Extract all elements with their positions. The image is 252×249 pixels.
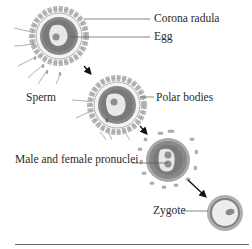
bottom-divider	[15, 244, 249, 245]
label-polar-bodies: Polar bodies	[156, 92, 213, 104]
label-pronuclei: Male and female pronuclei	[15, 154, 139, 166]
label-corona-radula: Corona radula	[154, 13, 219, 25]
stage-2-sperm-entry	[72, 78, 144, 140]
label-sperm: Sperm	[26, 92, 56, 104]
label-egg: Egg	[154, 31, 173, 43]
stage-4-zygote	[207, 195, 243, 231]
fertilization-diagram: Corona radula Egg Sperm Polar bodies Mal…	[0, 0, 252, 249]
label-zygote: Zygote	[153, 205, 186, 217]
stage-1-egg	[14, 9, 86, 84]
diagram-graphic	[0, 0, 252, 249]
